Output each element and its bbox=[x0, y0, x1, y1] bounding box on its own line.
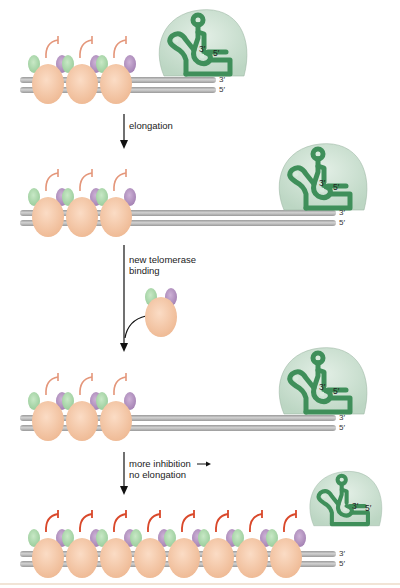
bound-protein bbox=[164, 510, 204, 578]
bound-protein bbox=[130, 510, 170, 578]
panel-new-binding bbox=[20, 348, 367, 441]
telomerase-label-3prime: 3′ bbox=[319, 179, 325, 188]
bound-protein bbox=[232, 510, 272, 578]
bound-protein bbox=[62, 510, 102, 578]
telomerase-label-5prime: 5′ bbox=[333, 183, 339, 192]
telomerase-label-5prime: 5′ bbox=[365, 504, 371, 513]
step-label-elongation: elongation bbox=[129, 120, 173, 131]
telomerase-label-3prime: 3′ bbox=[352, 502, 358, 511]
telomerase-label-5prime: 5′ bbox=[333, 387, 339, 396]
telomere-regulation-diagram: 3′ 5′ 3′ 5′ 3′ 5′ 3′ 5′ 3′ 5′ 3′ 5′ 3′ 5… bbox=[0, 0, 400, 588]
bound-protein bbox=[62, 169, 102, 237]
telomerase-complex bbox=[159, 10, 247, 76]
telomerase-label-5prime: 5′ bbox=[213, 49, 219, 58]
diagram-canvas bbox=[0, 0, 400, 588]
strand-label-5prime: 5′ bbox=[339, 560, 345, 568]
panel-inhibited bbox=[20, 471, 382, 578]
bound-protein bbox=[96, 510, 136, 578]
bound-protein bbox=[28, 510, 68, 578]
step-label-new-telomerase-binding: new telomerase binding bbox=[129, 254, 196, 276]
telomerase-complex bbox=[279, 144, 367, 210]
bottom-rule bbox=[0, 583, 400, 585]
step-label-more-inhibition: more inhibition no elongation bbox=[129, 458, 191, 480]
panel-after-elongation bbox=[20, 144, 367, 237]
strand-label-3prime: 3′ bbox=[339, 209, 345, 217]
strand-label-5prime: 5′ bbox=[339, 219, 345, 227]
strand-label-3prime: 3′ bbox=[339, 550, 345, 558]
telomerase-label-3prime: 3′ bbox=[199, 45, 205, 54]
bound-protein bbox=[198, 510, 238, 578]
bound-protein bbox=[266, 510, 306, 578]
telomerase-complex-released bbox=[310, 471, 382, 525]
bound-protein bbox=[28, 169, 68, 237]
bound-protein bbox=[96, 169, 136, 237]
step-arrow-elongation bbox=[120, 114, 128, 149]
strand-label-5prime: 5′ bbox=[219, 86, 225, 94]
bound-protein bbox=[62, 36, 102, 104]
strand-label-3prime: 3′ bbox=[219, 76, 225, 84]
strand-label-3prime: 3′ bbox=[339, 414, 345, 422]
bound-protein bbox=[96, 36, 136, 104]
strand-label-5prime: 5′ bbox=[339, 424, 345, 432]
telomerase-label-3prime: 3′ bbox=[319, 383, 325, 392]
telomerase-complex bbox=[279, 348, 367, 414]
bound-protein bbox=[28, 36, 68, 104]
incoming-protein bbox=[145, 288, 177, 337]
